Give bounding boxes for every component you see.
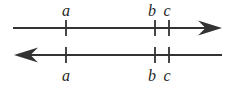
upper-label-c: c <box>159 3 175 19</box>
upper-label-b: b <box>144 3 160 19</box>
number-line-canvas <box>0 0 236 88</box>
lower-label-b: b <box>144 68 160 84</box>
number-line-figure: a b c a b c <box>0 0 236 88</box>
lower-number-line-group <box>14 47 222 63</box>
lower-label-c: c <box>159 68 175 84</box>
upper-label-a: a <box>58 3 74 19</box>
upper-number-line-group <box>13 20 222 36</box>
lower-label-a: a <box>58 68 74 84</box>
